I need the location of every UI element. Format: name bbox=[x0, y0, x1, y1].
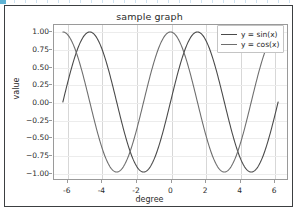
y-tick-mark bbox=[49, 120, 52, 121]
chrome-tick bbox=[102, 0, 103, 3]
y-tick-mark bbox=[49, 84, 52, 85]
chrome-tick bbox=[179, 0, 180, 3]
y-tick-label: 1.00 bbox=[32, 27, 49, 36]
screenshot-root: sample graph value degree 1.000.750.500.… bbox=[0, 0, 297, 211]
chrome-tick bbox=[36, 0, 37, 3]
y-tick-mark bbox=[49, 137, 52, 138]
y-tick-mark bbox=[49, 49, 52, 50]
cropped-app-chrome-strip bbox=[0, 0, 297, 4]
chrome-tick bbox=[113, 0, 114, 3]
chrome-tick bbox=[267, 0, 268, 3]
x-tick-mark bbox=[205, 180, 206, 183]
chrome-tick bbox=[146, 0, 147, 3]
chrome-tick bbox=[168, 0, 169, 3]
y-axis-label: value bbox=[12, 59, 21, 119]
y-tick-label: −1.00 bbox=[26, 168, 49, 177]
chrome-tick bbox=[201, 0, 202, 3]
y-tick-label: 0.50 bbox=[32, 62, 49, 71]
x-tick-label: 6 bbox=[272, 186, 277, 195]
y-tick-mark bbox=[49, 102, 52, 103]
legend-item-1[interactable]: y = cos(x) bbox=[221, 39, 279, 49]
legend-label: y = cos(x) bbox=[241, 40, 279, 49]
x-tick-label: 0 bbox=[168, 186, 173, 195]
chrome-tick bbox=[212, 0, 213, 3]
x-tick-mark bbox=[240, 180, 241, 183]
chrome-tick bbox=[124, 0, 125, 3]
x-tick-label: -2 bbox=[132, 186, 139, 195]
chrome-tick bbox=[69, 0, 70, 3]
chrome-tick bbox=[80, 0, 81, 3]
y-tick-mark bbox=[49, 67, 52, 68]
chrome-tick bbox=[14, 0, 15, 3]
chart-title: sample graph bbox=[5, 11, 294, 22]
y-tick-label: −0.25 bbox=[26, 115, 49, 124]
chrome-tick bbox=[190, 0, 191, 3]
y-tick-mark bbox=[49, 155, 52, 156]
x-tick-mark bbox=[171, 180, 172, 183]
chrome-tick bbox=[157, 0, 158, 3]
y-tick-label: −0.50 bbox=[26, 133, 49, 142]
x-tick-label: 4 bbox=[237, 186, 242, 195]
y-tick-mark bbox=[49, 173, 52, 174]
legend-swatch-line-icon bbox=[221, 44, 237, 45]
matplotlib-figure: sample graph value degree 1.000.750.500.… bbox=[4, 5, 293, 207]
legend-item-0[interactable]: y = sin(x) bbox=[221, 29, 279, 39]
chrome-tick bbox=[25, 0, 26, 3]
chrome-tick bbox=[234, 0, 235, 3]
y-tick-label: 0.00 bbox=[32, 98, 49, 107]
chrome-tick bbox=[256, 0, 257, 3]
y-tick-mark bbox=[49, 31, 52, 32]
x-tick-mark bbox=[67, 180, 68, 183]
legend[interactable]: y = sin(x) y = cos(x) bbox=[217, 25, 284, 53]
x-axis-label: degree bbox=[5, 195, 294, 204]
chrome-tick bbox=[58, 0, 59, 3]
y-tick-label: 0.75 bbox=[32, 44, 49, 53]
x-tick-mark bbox=[101, 180, 102, 183]
chrome-tick bbox=[135, 0, 136, 3]
x-tick-mark bbox=[136, 180, 137, 183]
chrome-tick bbox=[91, 0, 92, 3]
chrome-tick bbox=[245, 0, 246, 3]
x-tick-label: 2 bbox=[203, 186, 208, 195]
x-tick-mark bbox=[274, 180, 275, 183]
chrome-tick bbox=[289, 0, 290, 3]
y-tick-label: 0.25 bbox=[32, 80, 49, 89]
chrome-tick bbox=[278, 0, 279, 3]
x-tick-label: -4 bbox=[98, 186, 105, 195]
y-tick-label: −0.75 bbox=[26, 151, 49, 160]
chrome-tick bbox=[223, 0, 224, 3]
x-tick-label: -6 bbox=[63, 186, 70, 195]
app-accent-marker bbox=[0, 0, 6, 4]
chrome-tick bbox=[47, 0, 48, 3]
legend-label: y = sin(x) bbox=[241, 30, 278, 39]
legend-swatch-line-icon bbox=[221, 34, 237, 35]
